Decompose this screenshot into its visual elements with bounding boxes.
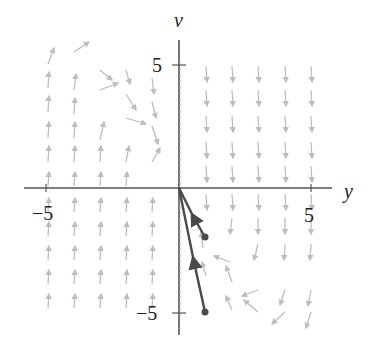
field-arrow-icon xyxy=(48,96,49,112)
field-arrow-icon xyxy=(214,256,230,262)
field-arrow-icon xyxy=(242,290,258,296)
field-arrow-icon xyxy=(48,294,49,308)
field-arrow-icon xyxy=(258,166,259,182)
field-arrow-icon xyxy=(258,66,259,82)
field-arrow-icon xyxy=(152,270,153,284)
field-arrow-icon xyxy=(285,166,286,182)
field-arrow-icon xyxy=(311,90,312,106)
field-arrow-icon xyxy=(74,294,75,308)
field-arrow-icon xyxy=(285,194,286,210)
phase-plane-diagram: v y 5 −5 −5 5 xyxy=(0,0,376,349)
field-arrow-icon xyxy=(126,94,136,110)
field-arrow-icon xyxy=(226,296,232,310)
field-arrow-icon xyxy=(232,166,233,182)
field-arrow-icon xyxy=(206,142,207,158)
field-arrow-icon xyxy=(284,244,285,260)
field-arrow-icon xyxy=(226,266,232,282)
field-arrow-icon xyxy=(258,142,259,158)
field-arrow-icon xyxy=(100,172,101,186)
field-arrow-icon xyxy=(285,116,286,132)
x-tick-label-5: 5 xyxy=(304,204,314,226)
field-arrow-icon xyxy=(74,42,89,52)
y-tick-label-5: 5 xyxy=(152,54,162,76)
field-arrow-icon xyxy=(254,244,258,260)
field-arrow-icon xyxy=(206,166,207,182)
field-arrow-icon xyxy=(152,78,154,94)
field-arrow-icon xyxy=(152,148,160,162)
field-arrow-icon xyxy=(126,70,130,84)
field-arrow-icon xyxy=(258,116,259,132)
field-arrow-icon xyxy=(126,172,127,186)
field-arrow-icon xyxy=(74,172,75,186)
field-arrow-icon xyxy=(272,312,285,324)
field-arrow-icon xyxy=(310,244,311,260)
field-arrow-icon xyxy=(206,66,207,82)
trajectory-curve xyxy=(179,188,205,312)
field-arrow-icon xyxy=(152,246,153,260)
field-arrow-icon xyxy=(232,142,233,158)
field-arrow-icon xyxy=(285,66,286,82)
field-arrow-icon xyxy=(126,294,127,308)
field-arrow-icon xyxy=(74,146,75,162)
axes: v y 5 −5 −5 5 xyxy=(24,9,353,335)
field-arrow-icon xyxy=(126,270,127,284)
field-arrow-icon xyxy=(100,294,101,308)
field-arrow-icon xyxy=(285,90,286,106)
field-arrow-icon xyxy=(48,48,54,64)
field-arrow-icon xyxy=(232,90,233,106)
field-arrow-icon xyxy=(48,122,49,138)
y-tick-label-neg5: −5 xyxy=(136,302,157,324)
field-arrow-icon xyxy=(100,198,101,212)
field-arrow-icon xyxy=(232,116,233,132)
field-arrow-icon xyxy=(285,142,286,158)
initial-point-dot xyxy=(202,234,209,241)
field-arrow-icon xyxy=(48,270,49,284)
y-axis-label: v xyxy=(174,9,183,31)
x-axis-label: y xyxy=(342,180,353,203)
field-arrow-icon xyxy=(74,270,75,284)
field-arrow-icon xyxy=(202,262,206,276)
field-arrow-icon xyxy=(100,222,101,236)
field-arrow-icon xyxy=(126,246,127,260)
field-arrow-icon xyxy=(100,246,101,260)
field-arrow-icon xyxy=(152,102,156,118)
field-arrow-icon xyxy=(100,70,112,80)
field-arrow-icon xyxy=(74,122,75,138)
field-arrow-icon xyxy=(126,198,127,212)
solution-trajectories xyxy=(179,188,209,316)
field-arrow-icon xyxy=(152,198,153,212)
field-arrow-icon xyxy=(258,194,259,210)
field-arrow-icon xyxy=(244,300,258,312)
field-arrow-icon xyxy=(126,118,146,124)
field-arrow-icon xyxy=(306,312,311,328)
field-arrow-icon xyxy=(74,222,75,236)
field-arrow-icon xyxy=(152,126,158,144)
field-arrow-icon xyxy=(74,98,75,114)
x-tick-label-neg5: −5 xyxy=(32,202,53,224)
field-arrow-icon xyxy=(74,198,75,212)
field-arrow-icon xyxy=(206,90,207,106)
field-arrow-icon xyxy=(100,83,118,90)
field-arrow-icon xyxy=(48,72,49,88)
field-arrow-icon xyxy=(311,142,312,158)
field-arrow-icon xyxy=(74,246,75,260)
initial-point-dot xyxy=(202,309,209,316)
field-arrow-icon xyxy=(48,246,49,260)
field-arrow-icon xyxy=(311,66,312,82)
field-arrow-icon xyxy=(311,166,312,182)
field-arrow-icon xyxy=(100,270,101,284)
field-arrow-icon xyxy=(230,218,232,234)
field-arrow-icon xyxy=(126,146,129,162)
field-arrow-icon xyxy=(311,116,312,132)
field-arrow-icon xyxy=(152,222,153,236)
field-arrow-icon xyxy=(48,222,49,236)
field-arrow-icon xyxy=(48,172,49,186)
field-arrow-icon xyxy=(100,146,101,162)
field-arrow-icon xyxy=(232,66,233,82)
field-arrow-icon xyxy=(308,290,311,306)
field-arrow-icon xyxy=(126,222,127,236)
field-arrow-icon xyxy=(74,74,76,90)
field-arrow-icon xyxy=(258,90,259,106)
field-arrow-icon xyxy=(100,122,104,140)
field-arrow-icon xyxy=(280,290,285,305)
